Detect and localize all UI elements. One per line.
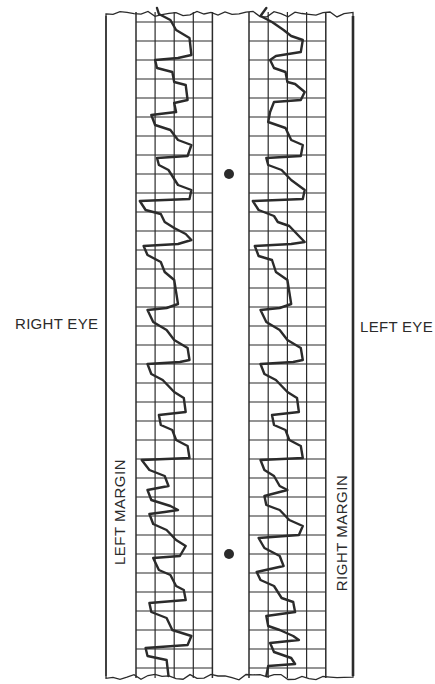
marker-dot — [224, 169, 234, 179]
left-margin-label: LEFT MARGIN — [111, 459, 128, 565]
eye-movement-figure — [0, 0, 435, 684]
left-eye-label: LEFT EYE — [360, 318, 433, 335]
paper-outline — [106, 11, 353, 680]
right-eye-label: RIGHT EYE — [15, 315, 98, 332]
chart-paper — [106, 11, 353, 680]
right-margin-label: RIGHT MARGIN — [333, 475, 350, 592]
marker-dot — [224, 549, 234, 559]
